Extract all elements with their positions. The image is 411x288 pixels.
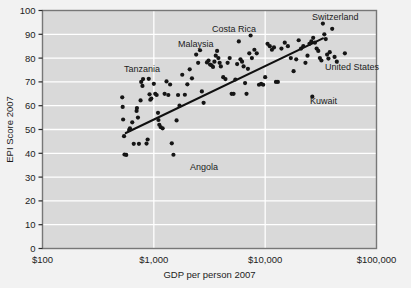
scatter-point xyxy=(121,105,125,109)
scatter-point xyxy=(149,96,153,100)
scatter-point xyxy=(155,93,159,97)
scatter-point xyxy=(146,137,150,141)
scatter-point xyxy=(328,50,332,54)
annotation-label-malaysia: Malaysia xyxy=(178,39,214,49)
y-tick-label-90: 90 xyxy=(25,29,36,40)
y-tick-label-60: 60 xyxy=(25,100,36,111)
x-axis-title: GDP per person 2007 xyxy=(163,269,255,280)
scatter-point xyxy=(321,21,325,25)
scatter-point xyxy=(228,56,232,60)
scatter-point xyxy=(283,41,287,45)
scatter-point xyxy=(343,51,347,55)
annotation-label-tanzania: Tanzania xyxy=(124,64,160,74)
scatter-point xyxy=(255,51,259,55)
scatter-point xyxy=(319,58,323,62)
scatter-point xyxy=(136,116,140,120)
scatter-point xyxy=(332,55,336,59)
scatter-point xyxy=(243,81,247,85)
scatter-point xyxy=(215,49,219,53)
y-tick-label-40: 40 xyxy=(25,148,36,159)
scatter-point xyxy=(163,92,167,96)
y-tick-label-10: 10 xyxy=(25,219,36,230)
scatter-point xyxy=(212,60,216,64)
scatter-point xyxy=(188,67,192,71)
scatter-point xyxy=(286,44,290,48)
scatter-point xyxy=(137,142,141,146)
y-tick-label-0: 0 xyxy=(30,243,35,254)
scatter-point xyxy=(301,44,305,48)
scatter-point xyxy=(168,82,172,86)
scatter-point xyxy=(218,61,222,65)
scatter-point xyxy=(180,73,184,77)
scatter-point xyxy=(313,41,317,45)
x-tick-label-100: $100 xyxy=(32,254,53,265)
scatter-point xyxy=(235,62,239,66)
scatter-point xyxy=(231,92,235,96)
annotation-label-angola: Angola xyxy=(190,162,218,172)
scatter-point xyxy=(156,111,160,115)
scatter-point xyxy=(138,98,142,102)
annotation-label-costa-rica: Costa Rica xyxy=(212,24,256,34)
scatter-point xyxy=(130,120,134,124)
scatter-point xyxy=(128,126,132,130)
scatter-point xyxy=(291,69,295,73)
x-tick-label-100000: $100,000 xyxy=(357,254,397,265)
scatter-point xyxy=(120,95,124,99)
scatter-point xyxy=(279,46,283,50)
y-tick-label-50: 50 xyxy=(25,124,36,135)
scatter-point xyxy=(156,118,160,122)
scatter-point xyxy=(206,58,210,62)
y-tick-label-70: 70 xyxy=(25,76,36,87)
scatter-point xyxy=(263,75,267,79)
scatter-point xyxy=(121,117,125,121)
scatter-point xyxy=(311,36,315,40)
scatter-point xyxy=(135,106,139,110)
scatter-point xyxy=(177,104,181,108)
y-tick-label-100: 100 xyxy=(20,5,36,16)
scatter-point xyxy=(122,134,126,138)
scatter-point xyxy=(322,32,326,36)
scatter-point xyxy=(200,89,204,93)
scatter-point xyxy=(190,76,194,80)
scatter-point xyxy=(132,142,136,146)
scatter-point xyxy=(244,92,248,96)
scatter-point xyxy=(330,27,334,31)
scatter-point xyxy=(226,61,230,65)
annotation-label-switzerland: Switzerland xyxy=(312,12,359,22)
scatter-point xyxy=(176,93,180,97)
scatter-point xyxy=(194,52,198,56)
scatter-point xyxy=(250,56,254,60)
scatter-point xyxy=(147,92,151,96)
scatter-point xyxy=(247,51,251,55)
scatter-point xyxy=(326,56,330,60)
scatter-point xyxy=(249,33,253,37)
scatter-point xyxy=(305,54,309,58)
scatter-point xyxy=(202,101,206,105)
scatter-chart-figure: 0102030405060708090100$100$1,000$10,000$… xyxy=(0,0,411,288)
scatter-point xyxy=(237,39,241,43)
scatter-point xyxy=(141,77,145,81)
scatter-point xyxy=(316,49,320,53)
annotation-label-united-states: United States xyxy=(325,62,380,72)
scatter-point xyxy=(164,79,168,83)
scatter-point xyxy=(216,56,220,60)
scatter-point xyxy=(324,37,328,41)
scatter-point xyxy=(196,61,200,65)
scatter-point xyxy=(261,83,265,87)
scatter-point xyxy=(297,38,301,42)
scatter-point xyxy=(219,64,223,68)
scatter-point xyxy=(170,141,174,145)
scatter-point xyxy=(272,45,276,49)
x-tick-label-10000: $10,000 xyxy=(248,254,282,265)
scatter-point xyxy=(166,93,170,97)
scatter-point xyxy=(240,60,244,64)
scatter-point xyxy=(233,77,237,81)
scatter-point xyxy=(252,48,256,52)
scatter-point xyxy=(268,44,272,48)
scatter-point xyxy=(171,153,175,157)
scatter-point xyxy=(124,153,128,157)
scatter-point xyxy=(152,82,156,86)
scatter-point xyxy=(303,61,307,65)
scatter-point xyxy=(276,80,280,84)
scatter-point xyxy=(241,64,245,68)
